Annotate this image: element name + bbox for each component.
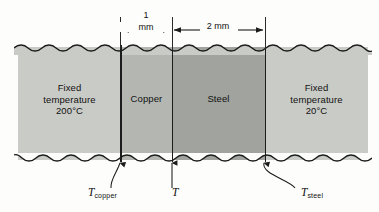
label-left-fixed-temperature: Fixed temperature 200°C (18, 82, 121, 117)
dimension-steel-value: 2 mm (203, 21, 234, 31)
right-line2: temperature (290, 94, 342, 105)
label-t-steel: Tsteel (301, 186, 323, 199)
left-line1: Fixed (58, 82, 82, 93)
label-t-interface: T (172, 186, 178, 199)
dimension-label-steel: 2 mm (171, 21, 265, 32)
t-copper-subscript: copper (94, 192, 117, 199)
left-temperature-value: 200°C (56, 105, 83, 116)
copper-label-text: Copper (131, 93, 163, 104)
left-line2: temperature (43, 94, 95, 105)
label-right-fixed-temperature: Fixed temperature 20°C (265, 82, 368, 117)
right-temperature-value: 20°C (306, 105, 328, 116)
steel-label-text: Steel (207, 93, 229, 104)
dimension-label-copper: 1 mm (120, 10, 172, 32)
thermal-conduction-diagram: 1 mm 2 mm Fixed temperature 200°C Copper… (0, 0, 379, 212)
dimension-copper-unit: mm (120, 22, 172, 32)
t-steel-subscript: steel (307, 192, 323, 199)
label-t-copper: Tcopper (88, 186, 117, 199)
right-line1: Fixed (305, 82, 329, 93)
t-interface-symbol: T (172, 186, 178, 198)
label-steel: Steel (172, 93, 265, 105)
label-copper: Copper (121, 93, 172, 105)
dimension-copper-value: 1 (120, 10, 172, 20)
